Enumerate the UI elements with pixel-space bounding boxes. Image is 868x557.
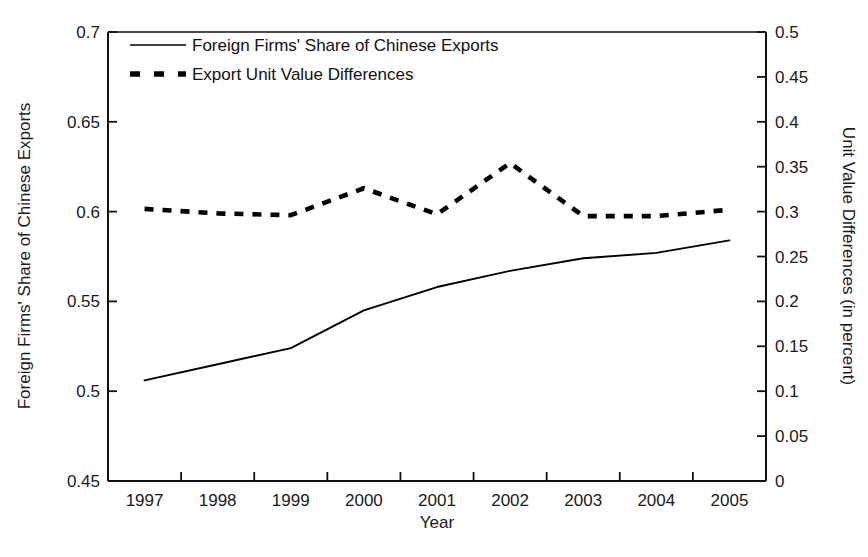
x-tick-label: 1998 — [199, 491, 237, 510]
series-line-export-unit-value-differences — [145, 163, 730, 216]
x-tick-label: 2004 — [637, 491, 675, 510]
plot-frame — [108, 32, 766, 481]
left-tick-label: 0.55 — [67, 292, 100, 311]
left-axis-ticks: 0.70.650.60.550.50.45 — [67, 23, 117, 491]
left-tick-label: 0.65 — [67, 113, 100, 132]
dual-axis-line-chart: 0.70.650.60.550.50.45 0.50.450.40.350.30… — [0, 0, 868, 557]
right-tick-label: 0.2 — [775, 292, 799, 311]
x-tick-label: 2005 — [711, 491, 749, 510]
x-tick-label: 2002 — [491, 491, 529, 510]
x-tick-label: 2000 — [345, 491, 383, 510]
right-tick-label: 0.1 — [775, 382, 799, 401]
series-layer — [145, 163, 730, 380]
legend-label-export-unit-value-differences: Export Unit Value Differences — [192, 65, 413, 84]
x-tick-label: 1999 — [272, 491, 310, 510]
right-tick-label: 0.4 — [775, 113, 799, 132]
x-tick-label: 2001 — [418, 491, 456, 510]
chart-figure: 0.70.650.60.550.50.45 0.50.450.40.350.30… — [0, 0, 868, 557]
right-tick-label: 0.3 — [775, 203, 799, 222]
left-tick-label: 0.6 — [76, 203, 100, 222]
right-tick-label: 0.05 — [775, 427, 808, 446]
x-tick-label: 2003 — [564, 491, 602, 510]
right-tick-label: 0.15 — [775, 337, 808, 356]
series-line-foreign-firms-share — [145, 240, 730, 380]
x-axis-ticks: 199719981999200020012002200320042005 — [126, 472, 749, 510]
chart-legend: Foreign Firms' Share of Chinese Exports … — [130, 36, 499, 84]
x-axis-title: Year — [420, 513, 455, 532]
left-tick-label: 0.45 — [67, 472, 100, 491]
right-tick-label: 0.35 — [775, 158, 808, 177]
left-tick-label: 0.7 — [76, 23, 100, 42]
x-tick-label: 1997 — [126, 491, 164, 510]
right-tick-label: 0.45 — [775, 68, 808, 87]
right-tick-label: 0 — [775, 472, 784, 491]
right-tick-label: 0.5 — [775, 23, 799, 42]
right-axis-ticks: 0.50.450.40.350.30.250.20.150.10.050 — [757, 23, 808, 491]
y-right-axis-title: Unit Value Differences (in percent) — [839, 127, 858, 385]
left-tick-label: 0.5 — [76, 382, 100, 401]
y-left-axis-title: Foreign Firms' Share of Chinese Exports — [15, 103, 34, 410]
legend-label-foreign-firms-share: Foreign Firms' Share of Chinese Exports — [192, 36, 499, 55]
right-tick-label: 0.25 — [775, 248, 808, 267]
